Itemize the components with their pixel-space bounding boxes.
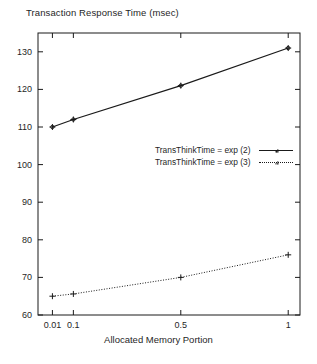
data-point-marker (49, 293, 55, 299)
legend-item: TransThinkTime = exp (2) (155, 144, 293, 156)
chart-title: Transaction Response Time (msec) (26, 7, 179, 18)
data-point-marker (178, 83, 184, 89)
data-point-marker (285, 252, 291, 258)
x-tick-label: 0.01 (44, 320, 62, 330)
series-line (52, 255, 288, 296)
series-2 (49, 252, 291, 299)
legend-marker-icon (273, 148, 278, 153)
y-tick-label: 90 (6, 197, 32, 207)
data-point-marker (70, 116, 76, 122)
y-tick-label: 130 (6, 47, 32, 57)
plot-area (0, 0, 317, 364)
y-tick-label: 60 (6, 310, 32, 320)
data-point-marker (49, 124, 55, 130)
y-tick-label: 120 (6, 84, 32, 94)
x-tick-label: 0.5 (175, 320, 188, 330)
legend-line-sample (259, 145, 293, 155)
legend-marker-icon (273, 160, 278, 165)
x-axis-label: Allocated Memory Portion (0, 334, 317, 345)
legend-label: TransThinkTime = exp (2) (155, 145, 251, 155)
data-point-marker (178, 274, 184, 280)
legend-label: TransThinkTime = exp (3) (155, 157, 251, 167)
chart-container: Transaction Response Time (msec) 6070809… (0, 0, 317, 364)
legend-line-sample (259, 157, 293, 167)
series-line (52, 48, 288, 127)
data-point-marker (285, 45, 291, 51)
data-point-marker (70, 291, 76, 297)
chart-legend: TransThinkTime = exp (2)TransThinkTime =… (155, 144, 293, 168)
y-tick-label: 70 (6, 272, 32, 282)
legend-item: TransThinkTime = exp (3) (155, 156, 293, 168)
x-tick-label: 0.1 (67, 320, 80, 330)
y-tick-label: 100 (6, 160, 32, 170)
series-1 (49, 45, 291, 130)
x-tick-label: 1 (286, 320, 291, 330)
y-tick-label: 110 (6, 122, 32, 132)
y-tick-label: 80 (6, 235, 32, 245)
plot-frame (38, 33, 300, 315)
